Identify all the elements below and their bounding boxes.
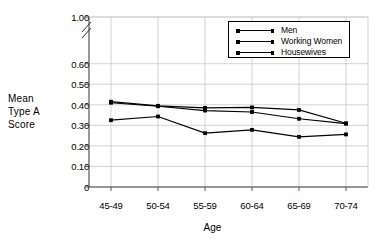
legend-label: Housewives xyxy=(281,47,326,58)
legend-label: Men xyxy=(281,25,297,36)
data-point-marker xyxy=(344,122,348,126)
data-point-marker xyxy=(297,135,301,139)
legend-label: Working Women xyxy=(281,36,342,47)
x-tick-label: 70-74 xyxy=(334,200,357,211)
axis-break-icon xyxy=(82,22,91,38)
x-axis-title-text: Age xyxy=(204,222,222,233)
x-axis-title: Age xyxy=(0,222,385,233)
legend-marker-icon xyxy=(235,51,275,54)
x-tick-label: 55-59 xyxy=(193,200,216,211)
x-tick-label: 50-54 xyxy=(146,200,169,211)
x-tick-label: 60-64 xyxy=(240,200,263,211)
chart-legend: Men Working Women Housewives xyxy=(228,21,350,58)
data-point-marker xyxy=(250,128,254,132)
legend-marker-icon xyxy=(235,40,275,43)
legend-item-working-women: Working Women xyxy=(235,36,345,47)
legend-item-men: Men xyxy=(235,25,345,36)
legend-item-housewives: Housewives xyxy=(235,47,345,58)
x-tick-label: 45-49 xyxy=(99,200,122,211)
data-point-marker xyxy=(109,118,113,122)
data-point-marker xyxy=(344,132,348,136)
x-tick-label: 65-69 xyxy=(287,200,310,211)
data-point-marker xyxy=(203,131,207,135)
data-point-marker xyxy=(156,104,160,108)
data-point-marker xyxy=(297,108,301,112)
data-point-marker xyxy=(156,115,160,119)
data-point-marker xyxy=(203,109,207,113)
chart-root: Mean Type A Score 1.000.600.500.400.300.… xyxy=(0,0,385,247)
data-point-marker xyxy=(250,106,254,110)
data-point-marker xyxy=(109,101,113,105)
data-point-marker xyxy=(250,110,254,114)
data-point-marker xyxy=(297,117,301,121)
legend-marker-icon xyxy=(235,29,275,32)
